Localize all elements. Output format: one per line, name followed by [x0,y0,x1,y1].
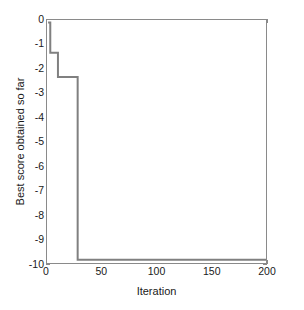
x-tick-label: 0 [26,266,66,277]
data-series-line [47,20,266,263]
x-tick-label: 150 [192,266,232,277]
y-axis-title: Best score obtained so far [14,19,28,264]
x-tick-mark-top [267,19,268,23]
x-tick-label: 200 [247,266,287,277]
x-tick-label: 100 [137,266,177,277]
figure: 0-1-2-3-4-5-6-7-8-9-10 050100150200 Iter… [0,0,304,310]
x-tick-mark [267,260,268,264]
x-tick-label: 50 [81,266,121,277]
x-axis-title: Iteration [46,285,267,297]
plot-area [46,19,267,264]
